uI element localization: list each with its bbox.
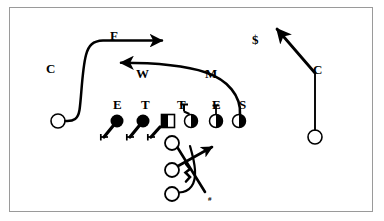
- ball-center-rush: [151, 127, 160, 137]
- label-motion-mark: #: [208, 196, 212, 203]
- corner-left-marker: [51, 114, 65, 128]
- backfield-zigzag: [186, 164, 191, 182]
- back-middle: [165, 163, 179, 177]
- label-end-right: E: [212, 98, 221, 111]
- route-corner-right: [277, 29, 322, 144]
- ball-center-fill: [162, 115, 169, 128]
- label-tackle-right: T: [177, 98, 186, 111]
- route-free-safety: [51, 41, 162, 128]
- def-tackle-left: [126, 115, 150, 141]
- def-end-left: [100, 115, 124, 141]
- label-tackle-left: T: [141, 98, 150, 111]
- def-tackle-left-rush: [130, 126, 139, 137]
- offense-backfield: [165, 136, 212, 201]
- label-corner-right: C: [313, 63, 322, 76]
- label-sam-backer: S: [239, 98, 246, 111]
- play-diagram-root: C F $ C W M E T T E S #: [0, 0, 384, 221]
- label-free-safety: F: [110, 29, 118, 42]
- def-sam: [233, 115, 246, 128]
- back-bottom: [165, 187, 179, 201]
- corner-right-marker: [308, 130, 322, 144]
- label-end-left: E: [113, 98, 122, 111]
- label-corner-left: C: [46, 62, 55, 75]
- defensive-line: [100, 104, 246, 141]
- label-mike-backer: M: [205, 67, 217, 80]
- label-strong-safety: $: [252, 33, 259, 46]
- def-end-left-rush: [104, 126, 113, 137]
- play-diagram-canvas: [0, 0, 384, 221]
- label-will-backer: W: [136, 67, 149, 80]
- corner-right-break: [277, 29, 315, 73]
